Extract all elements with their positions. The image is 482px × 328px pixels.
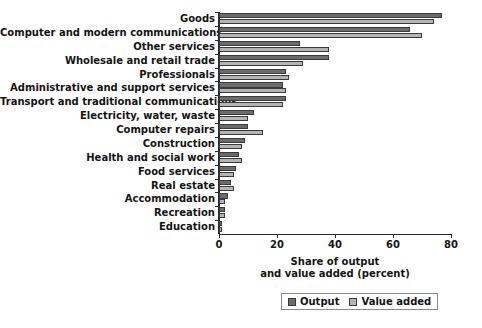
y-axis-tick [215, 95, 219, 96]
y-axis-tick [215, 40, 219, 41]
legend-swatch-value-added-icon [349, 298, 357, 306]
bar-value-added[interactable] [219, 102, 283, 107]
bar-output[interactable] [219, 82, 283, 87]
bar-output[interactable] [219, 55, 329, 60]
legend-label-value-added: Value added [361, 296, 431, 307]
bar-chart: GoodsComputer and modern communicationsO… [0, 0, 482, 328]
x-axis-tick [335, 234, 336, 238]
y-axis-tick [215, 123, 219, 124]
y-axis-tick [215, 68, 219, 69]
category-label: Electricity, water, waste [0, 109, 215, 123]
y-axis-tick [215, 151, 219, 152]
bar-row [219, 137, 451, 151]
x-axis-title: Share of output and value added (percent… [219, 256, 451, 280]
bar-value-added[interactable] [219, 199, 225, 204]
bar-rows [219, 12, 451, 234]
y-axis-tick [215, 165, 219, 166]
category-label: Transport and traditional communications [0, 95, 215, 109]
x-axis-tick-label: 0 [204, 239, 234, 250]
category-label: Real estate [0, 179, 215, 193]
category-label: Wholesale and retail trade [0, 54, 215, 68]
category-label: Computer and modern communications [0, 26, 215, 40]
x-axis-tick-label: 60 [378, 239, 408, 250]
bar-output[interactable] [219, 13, 442, 18]
bar-value-added[interactable] [219, 88, 286, 93]
bar-value-added[interactable] [219, 47, 329, 52]
bar-output[interactable] [219, 27, 410, 32]
legend-label-output: Output [300, 296, 339, 307]
bar-output[interactable] [219, 180, 231, 185]
bar-output[interactable] [219, 166, 236, 171]
x-axis-tick-label: 20 [262, 239, 292, 250]
y-axis-tick [215, 12, 219, 13]
bar-output[interactable] [219, 138, 245, 143]
bar-row [219, 179, 451, 193]
x-axis-tick [393, 234, 394, 238]
bar-value-added[interactable] [219, 158, 242, 163]
category-label: Health and social work [0, 151, 215, 165]
bar-row [219, 26, 451, 40]
x-axis-tick [451, 234, 452, 238]
bar-output[interactable] [219, 110, 254, 115]
chart-legend: Output Value added [281, 293, 438, 310]
bar-row [219, 12, 451, 26]
bar-value-added[interactable] [219, 227, 222, 232]
category-label: Construction [0, 137, 215, 151]
legend-swatch-output-icon [288, 298, 296, 306]
bar-row [219, 109, 451, 123]
plot-area [219, 12, 451, 234]
y-axis-tick [215, 81, 219, 82]
x-axis-title-line2: and value added (percent) [219, 268, 451, 280]
bar-output[interactable] [219, 152, 239, 157]
y-axis-tick [215, 220, 219, 221]
y-axis-tick [215, 26, 219, 27]
y-axis-tick [215, 109, 219, 110]
bar-row [219, 95, 451, 109]
y-axis-tick [215, 179, 219, 180]
bar-value-added[interactable] [219, 116, 248, 121]
bar-value-added[interactable] [219, 61, 303, 66]
bar-row [219, 192, 451, 206]
bar-value-added[interactable] [219, 213, 225, 218]
bar-output[interactable] [219, 96, 286, 101]
y-axis-tick [215, 192, 219, 193]
x-axis-tick-label: 40 [320, 239, 350, 250]
x-axis-title-line1: Share of output [219, 256, 451, 268]
bar-row [219, 81, 451, 95]
bar-value-added[interactable] [219, 130, 263, 135]
category-label: Food services [0, 165, 215, 179]
bar-row [219, 206, 451, 220]
bar-row [219, 151, 451, 165]
category-label: Professionals [0, 68, 215, 82]
bar-value-added[interactable] [219, 33, 422, 38]
y-axis-tick [215, 137, 219, 138]
bar-row [219, 40, 451, 54]
category-label: Computer repairs [0, 123, 215, 137]
category-label: Accommodation [0, 192, 215, 206]
bar-value-added[interactable] [219, 186, 234, 191]
bar-output[interactable] [219, 207, 225, 212]
category-axis-labels: GoodsComputer and modern communicationsO… [0, 12, 215, 234]
legend-item-output[interactable]: Output [288, 296, 339, 307]
bar-value-added[interactable] [219, 75, 289, 80]
bar-output[interactable] [219, 69, 286, 74]
category-label: Education [0, 220, 215, 234]
x-axis-tick [277, 234, 278, 238]
bar-row [219, 68, 451, 82]
bar-output[interactable] [219, 221, 222, 226]
category-label: Goods [0, 12, 215, 26]
bar-row [219, 123, 451, 137]
y-axis-tick [215, 54, 219, 55]
x-axis-tick-label: 80 [436, 239, 466, 250]
category-label: Other services [0, 40, 215, 54]
bar-value-added[interactable] [219, 172, 234, 177]
category-label: Administrative and support services [0, 81, 215, 95]
bar-output[interactable] [219, 193, 228, 198]
bar-row [219, 54, 451, 68]
bar-value-added[interactable] [219, 19, 434, 24]
legend-item-value-added[interactable]: Value added [349, 296, 431, 307]
bar-output[interactable] [219, 41, 300, 46]
bar-value-added[interactable] [219, 144, 242, 149]
bar-output[interactable] [219, 124, 248, 129]
bar-row [219, 165, 451, 179]
